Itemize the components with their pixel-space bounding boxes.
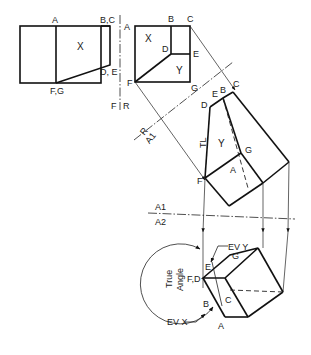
fold-label-a1: A1	[155, 202, 166, 212]
front-label-fg: F,G	[50, 86, 64, 96]
side-label-d: D	[162, 44, 169, 54]
projection-lines-r-a1	[135, 26, 235, 180]
aux2-edge-e-b	[212, 262, 222, 306]
side-label-b: B	[168, 14, 174, 24]
front-label-a: A	[52, 15, 58, 25]
projector-f-down	[203, 178, 205, 232]
aux1-edge-f-lower	[205, 178, 229, 206]
aux2-label-g: G	[232, 251, 239, 261]
descriptive-geometry-drawing: A B,C D, E F,G X A F R B C D E F G X Y R…	[0, 0, 311, 355]
aux2-label-a: A	[218, 321, 224, 331]
fold-line-a1-a2: A1 A2	[148, 202, 295, 227]
front-label-bc: B,C	[100, 15, 116, 25]
front-label-plane-x: X	[77, 41, 84, 52]
projector-right-cont	[283, 232, 288, 292]
aux2-label-fd: F,D	[187, 274, 201, 284]
aux2-hidden-edge	[230, 290, 283, 292]
side-label-plane-y: Y	[176, 65, 183, 76]
aux1-label-b: B	[220, 85, 226, 95]
aux1-label-a: A	[230, 165, 236, 175]
aux1-label-true-length: TL	[198, 137, 208, 148]
aux1-edge-right-bottom	[263, 162, 289, 183]
projection-lines-a1-a2	[203, 162, 289, 292]
fold-line	[148, 213, 295, 219]
auxiliary-view-2: EV Y G E F,D B C A EV X True Angle	[140, 242, 283, 331]
aux2-label-ev-x: EV X	[167, 317, 188, 327]
fold-line-r-a1: R A1	[134, 62, 233, 145]
auxiliary-view-1: E B C D G A F Y TL	[197, 79, 289, 206]
fold-line-f-r: A F R	[111, 15, 130, 111]
side-label-f: F	[127, 78, 133, 88]
aux1-label-d: D	[201, 100, 208, 110]
aux2-label-c: C	[225, 295, 232, 305]
aux2-edge-g-right	[258, 248, 283, 292]
aux2-top-face	[203, 248, 258, 278]
aux2-edge-bottom-right	[248, 292, 283, 317]
side-label-g: G	[191, 83, 198, 93]
aux1-edge-g-bottom	[241, 153, 263, 183]
right-side-view: B C D E F G X Y	[127, 14, 199, 93]
aux2-label-true: True	[164, 270, 174, 288]
aux1-edge-lower-right	[229, 183, 263, 206]
aux1-label-plane-y: Y	[218, 138, 225, 149]
aux1-label-c: C	[233, 79, 240, 89]
aux2-label-e: E	[205, 262, 211, 272]
fold-side-label-a: A	[124, 22, 130, 32]
aux2-label-angle: Angle	[175, 268, 185, 291]
aux1-label-e: E	[212, 89, 218, 99]
aux2-edge-fd-a	[203, 278, 225, 317]
side-label-c: C	[187, 14, 194, 24]
side-label-e: E	[193, 49, 199, 59]
aux1-label-g: G	[245, 145, 252, 155]
aux1-label-f: F	[197, 176, 203, 186]
projector-right-down	[288, 162, 289, 232]
fold-label-r: R	[123, 101, 130, 111]
fold-label-f: F	[111, 101, 117, 111]
side-edge-d-f	[135, 54, 171, 82]
aux2-label-b: B	[203, 299, 209, 309]
fold-label-a2: A2	[155, 217, 166, 227]
side-label-plane-x: X	[145, 33, 152, 44]
front-label-de: D, E	[100, 67, 118, 77]
front-view: A B,C D, E F,G X	[20, 15, 118, 96]
aux1-edge-c-right	[233, 92, 289, 162]
front-view-outline	[20, 26, 101, 83]
